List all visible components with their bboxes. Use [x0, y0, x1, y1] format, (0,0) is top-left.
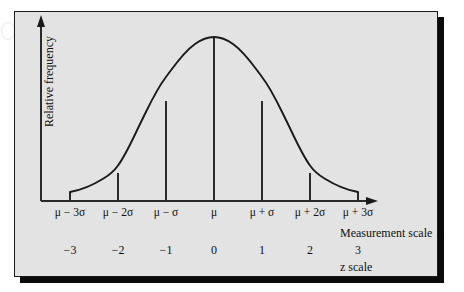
z-tick-label-minus2: −2: [112, 243, 125, 258]
x-tick-label-plus2sigma: μ + 2σ: [295, 206, 325, 218]
x-tick-label-plus1sigma: μ + σ: [250, 206, 275, 218]
z-tick-label-minus3: −3: [64, 243, 77, 258]
x-tick-label-minus2sigma: μ − 2σ: [103, 206, 133, 218]
z-tick-label-zero: 0: [211, 243, 217, 258]
z-tick-label-minus1: −1: [160, 243, 173, 258]
ordinate-lines: [70, 37, 358, 201]
figure-root: Relative frequency μ − 3σ μ − 2σ μ − σ μ…: [0, 0, 464, 292]
scan-artifact: [1, 22, 15, 40]
z-tick-label-one: 1: [259, 243, 265, 258]
z-scale-label: z scale: [340, 260, 372, 275]
measurement-scale-label: Measurement scale: [340, 226, 432, 241]
x-tick-label-minus3sigma: μ − 3σ: [55, 206, 85, 218]
x-tick-label-minus1sigma: μ − σ: [154, 206, 179, 218]
z-tick-label-two: 2: [307, 243, 313, 258]
x-axis-arrowhead: [366, 197, 378, 205]
x-tick-label-plus3sigma: μ + 3σ: [343, 206, 373, 218]
x-tick-label-mu: μ: [211, 206, 217, 218]
z-tick-label-three: 3: [355, 243, 361, 258]
y-axis-label: Relative frequency: [42, 12, 57, 152]
figure-panel: Relative frequency μ − 3σ μ − 2σ μ − σ μ…: [14, 11, 438, 277]
